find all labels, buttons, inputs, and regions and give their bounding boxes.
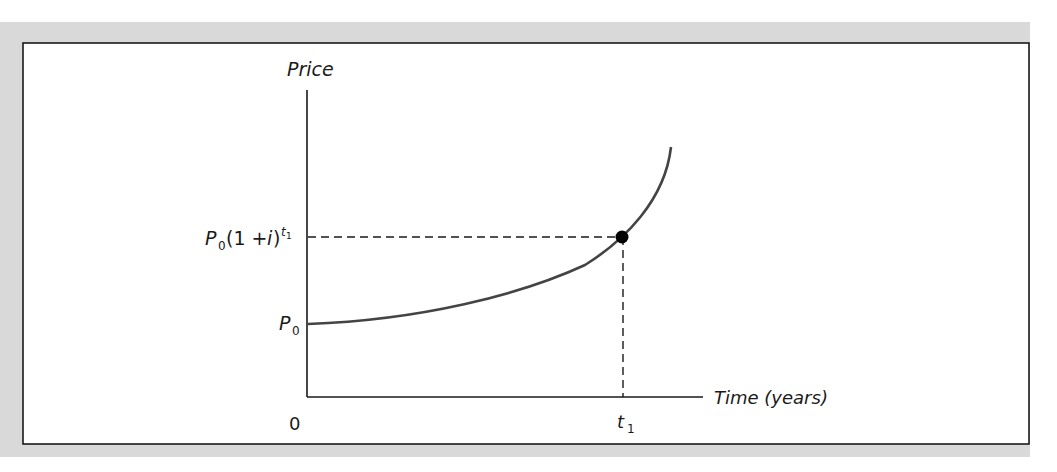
svg-text:1: 1 [627, 422, 635, 436]
svg-text:): ) [273, 227, 280, 249]
svg-text:t: t [617, 411, 625, 432]
highlighted-point [616, 231, 629, 244]
svg-text:P: P [279, 312, 291, 334]
svg-text:0: 0 [292, 324, 300, 338]
svg-text:P: P [205, 227, 217, 249]
svg-text:0: 0 [218, 239, 226, 253]
x-axis-label: Time (years) [714, 387, 828, 408]
y-axis-label: Price [287, 58, 334, 80]
chart-panel [23, 43, 1029, 444]
svg-text:1: 1 [286, 231, 292, 241]
origin-label: 0 [289, 413, 300, 434]
price-growth-diagram: Price Time (years) 0 t 1 P 0 P 0 (1 + i … [0, 0, 1057, 472]
